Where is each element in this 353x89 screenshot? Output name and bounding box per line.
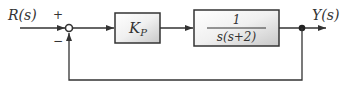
minus-sign: − [53,34,63,48]
block-diagram: R(s) + − KP 1 s(s+2) Y(s) [0,0,353,89]
controller-block: KP [115,13,160,43]
plant-numerator: 1 [233,13,241,27]
summing-junction [66,25,73,32]
plant-denominator: s(s+2) [217,30,257,44]
input-label: R(s) [7,7,37,23]
plus-sign: + [53,8,63,22]
output-label: Y(s) [312,7,339,23]
plant-block: 1 s(s+2) [194,10,279,46]
